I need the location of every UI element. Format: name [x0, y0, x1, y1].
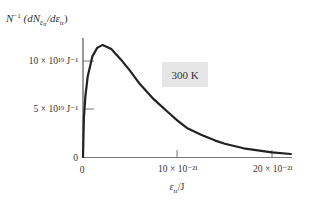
- y-tick-label-5: 5 × 10¹⁹ J⁻¹: [34, 104, 79, 114]
- x-tick-label-10: 10 × 10⁻²¹: [158, 164, 198, 174]
- x-tick-label-20: 20 × 10⁻²¹: [253, 164, 293, 174]
- y-tick-label-10: 10 × 10¹⁹ J⁻¹: [29, 56, 78, 66]
- y-tick-label-0: 0: [73, 153, 78, 163]
- x-tick-label-0: 0: [80, 165, 85, 175]
- temperature-annotation: 300 K: [171, 69, 198, 81]
- y-axis-label: N−1 (dNεtr/dεtr): [5, 12, 68, 27]
- energy-distribution-chart: N−1 (dNεtr/dεtr) 10 × 10¹⁹ J⁻¹ 5 × 10¹⁹ …: [0, 0, 313, 201]
- x-axis-label: εtr/J: [170, 181, 185, 195]
- distribution-curve: [83, 45, 291, 157]
